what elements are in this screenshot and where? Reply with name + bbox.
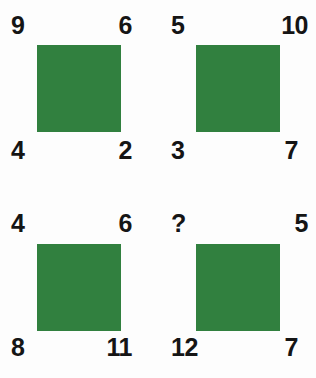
corner-value-top-left: 4 <box>11 211 24 236</box>
green-square <box>37 45 121 132</box>
corner-value-bottom-right: 2 <box>119 138 132 163</box>
corner-value-top-right: 6 <box>119 211 132 236</box>
puzzle-panel-top-right: 5 10 3 7 <box>158 0 316 189</box>
green-square <box>196 244 280 331</box>
corner-value-unknown: ? <box>171 211 186 236</box>
corner-value-top-right: 10 <box>281 13 308 38</box>
corner-value-bottom-left: 8 <box>11 335 24 360</box>
corner-value-bottom-left: 4 <box>11 138 24 163</box>
corner-value-top-left: 5 <box>171 13 184 38</box>
corner-value-bottom-right: 7 <box>285 138 298 163</box>
corner-value-bottom-left: 3 <box>171 138 184 163</box>
puzzle-panel-bottom-right: ? 5 12 7 <box>158 189 316 378</box>
puzzle-panel-bottom-left: 4 6 8 11 <box>0 189 158 378</box>
green-square <box>37 244 121 331</box>
corner-value-top-left: 9 <box>11 13 24 38</box>
corner-value-bottom-right: 11 <box>107 335 132 360</box>
puzzle-panel-top-left: 9 6 4 2 <box>0 0 158 189</box>
green-square <box>196 45 280 132</box>
corner-value-bottom-left: 12 <box>171 335 198 360</box>
corner-value-top-right: 5 <box>295 211 308 236</box>
corner-value-top-right: 6 <box>119 13 132 38</box>
corner-value-bottom-right: 7 <box>285 335 298 360</box>
puzzle-grid: 9 6 4 2 5 10 3 7 4 6 8 11 ? 5 12 7 <box>0 0 316 378</box>
